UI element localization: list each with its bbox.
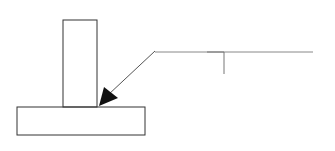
fillet-weld-symbol-icon — [207, 52, 224, 74]
base-plate — [17, 107, 145, 135]
arrow-leader-line — [108, 51, 155, 95]
vertical-plate — [63, 20, 97, 107]
weld-diagram — [0, 0, 335, 151]
arrowhead-icon — [99, 87, 118, 106]
